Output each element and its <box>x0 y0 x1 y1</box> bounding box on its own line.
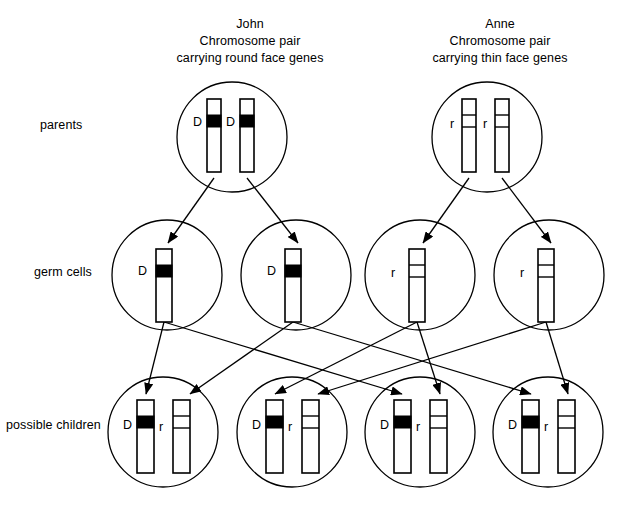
arrow-germ-to-child-8 <box>546 322 568 394</box>
germ-cell-4-allele: r <box>520 266 524 280</box>
child-4-allele-1: D <box>508 418 517 432</box>
arrow-parent-to-germ-3 <box>423 178 469 243</box>
arrow-layer <box>146 178 568 394</box>
chromosome-body <box>558 400 575 473</box>
dominant-gene-band <box>285 265 301 277</box>
diagram-canvas <box>0 0 636 526</box>
child-3-allele-1: D <box>380 418 389 432</box>
chromosome-body <box>538 249 554 322</box>
parent-cell-anne <box>432 82 542 192</box>
germ-cell-1-chromosome <box>156 249 172 322</box>
chromosome-body <box>302 400 319 473</box>
arrow-germ-to-child-1 <box>146 322 164 394</box>
child-2-chromosome-1 <box>266 400 283 473</box>
child-3-chromosome-1 <box>394 400 411 473</box>
dominant-gene-band <box>240 115 254 127</box>
dominant-gene-band <box>137 416 154 428</box>
arrow-germ-to-child-2 <box>164 322 402 394</box>
chromosome-body <box>462 99 476 172</box>
arrow-germ-to-child-7 <box>318 322 546 394</box>
arrow-germ-to-child-4 <box>293 322 531 394</box>
parent-john-allele-1: D <box>193 115 202 129</box>
germ-cell-3-chromosome <box>409 249 425 322</box>
arrow-parent-to-germ-1 <box>168 178 214 243</box>
dominant-gene-band <box>266 416 283 428</box>
child-4-allele-2: r <box>544 420 548 434</box>
parent-cell-john <box>177 82 287 192</box>
germ-cell-2-chromosome <box>285 249 301 322</box>
parent-anne-allele-2: r <box>483 117 487 131</box>
child-1-chromosome-1 <box>137 400 154 473</box>
dominant-gene-band <box>522 416 539 428</box>
child-4-chromosome-2 <box>558 400 575 473</box>
arrow-germ-to-child-3 <box>190 322 293 394</box>
chromosome-body <box>522 400 539 473</box>
dominant-gene-band <box>156 265 172 277</box>
parent-john-allele-2: D <box>226 115 235 129</box>
germ-cell-4-chromosome <box>538 249 554 322</box>
cell-layer <box>108 82 604 487</box>
chromosome-body <box>495 99 509 172</box>
chromosome-body <box>156 249 172 322</box>
chromosome-body <box>394 400 411 473</box>
chromosome-body <box>266 400 283 473</box>
child-1-allele-1: D <box>123 418 132 432</box>
child-3-chromosome-2 <box>430 400 447 473</box>
child-2-allele-2: r <box>288 420 292 434</box>
child-3-allele-2: r <box>416 420 420 434</box>
arrow-germ-to-child-6 <box>417 322 440 394</box>
child-2-allele-1: D <box>252 418 261 432</box>
parent-anne-chromosome-1 <box>462 99 476 172</box>
germ-cell-2-allele: D <box>267 264 276 278</box>
chromosome-body <box>207 99 221 172</box>
child-2-chromosome-2 <box>302 400 319 473</box>
chromosome-body <box>173 400 190 473</box>
chromosome-body <box>240 99 254 172</box>
chromosome-body <box>137 400 154 473</box>
chromosome-body <box>430 400 447 473</box>
parent-john-chromosome-2 <box>240 99 254 172</box>
parent-anne-chromosome-2 <box>495 99 509 172</box>
child-1-allele-2: r <box>159 420 163 434</box>
dominant-gene-band <box>394 416 411 428</box>
germ-cell-1-allele: D <box>138 264 147 278</box>
parent-anne-allele-1: r <box>450 117 454 131</box>
parent-john-chromosome-1 <box>207 99 221 172</box>
chromosome-body <box>285 249 301 322</box>
chromosome-body <box>409 249 425 322</box>
child-4-chromosome-1 <box>522 400 539 473</box>
dominant-gene-band <box>207 115 221 127</box>
genetics-inheritance-diagram: John Chromosome pair carrying round face… <box>0 0 636 526</box>
germ-cell-3-allele: r <box>391 266 395 280</box>
child-1-chromosome-2 <box>173 400 190 473</box>
